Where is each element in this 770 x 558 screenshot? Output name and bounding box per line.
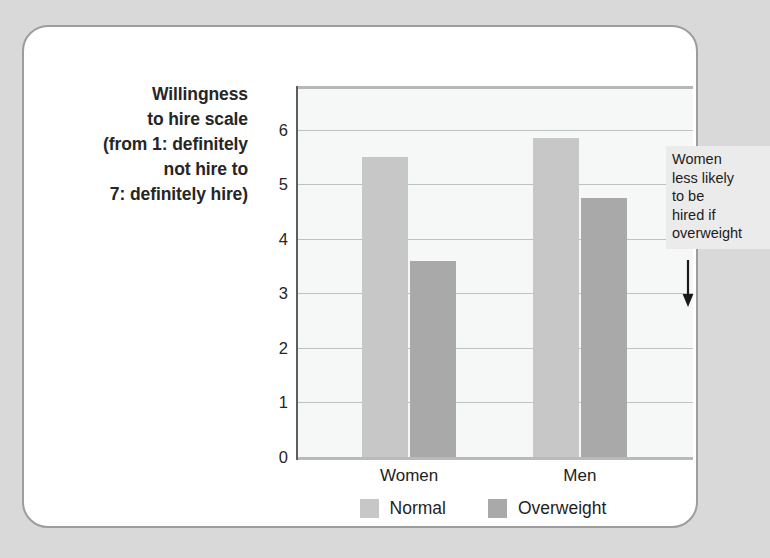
figure-card: Willingness to hire scale (from 1: defin… xyxy=(22,25,698,528)
annotation-line-1: Women xyxy=(672,150,765,169)
chart-legend: NormalOverweight xyxy=(273,498,693,519)
down-arrow-icon xyxy=(681,260,695,308)
y-axis-tick-label: 0 xyxy=(266,449,288,466)
y-axis-tick-label: 3 xyxy=(266,285,288,302)
y-axis-tick-label: 6 xyxy=(266,122,288,139)
y-axis-title: Willingness to hire scale (from 1: defin… xyxy=(30,82,248,207)
legend-label-overweight: Overweight xyxy=(518,498,607,519)
x-axis-label-women: Women xyxy=(349,466,469,486)
y-axis-tick-label: 2 xyxy=(266,340,288,357)
bar-men-normal xyxy=(533,138,579,457)
annotation-line-4: hired if xyxy=(672,206,765,225)
bars-layer xyxy=(296,89,693,457)
y-axis-title-line-2: to hire scale xyxy=(30,107,248,132)
y-axis-tick-label: 1 xyxy=(266,394,288,411)
bar-men-overweight xyxy=(581,198,627,457)
y-axis-line xyxy=(296,86,298,460)
y-axis-title-line-1: Willingness xyxy=(30,82,248,107)
chart-plot-region: 0123456 WomenMen Women less likely to be… xyxy=(273,64,693,476)
bar-women-overweight xyxy=(410,261,456,457)
annotation-line-3: to be xyxy=(672,187,765,206)
annotation-line-2: less likely xyxy=(672,169,765,188)
legend-swatch-overweight xyxy=(488,499,507,518)
legend-swatch-normal xyxy=(360,499,379,518)
y-axis-title-line-3: (from 1: definitely xyxy=(30,132,248,157)
y-axis-tick-label: 5 xyxy=(266,176,288,193)
y-axis-tick-label: 4 xyxy=(266,231,288,248)
x-axis-label-men: Men xyxy=(520,466,640,486)
legend-label-normal: Normal xyxy=(390,498,446,519)
annotation-callout: Women less likely to be hired if overwei… xyxy=(666,146,770,249)
y-axis-title-line-4: not hire to xyxy=(30,157,248,182)
x-axis-line xyxy=(296,457,693,460)
y-axis-title-line-5: 7: definitely hire) xyxy=(30,182,248,207)
bar-women-normal xyxy=(362,157,408,457)
legend-item-normal[interactable]: Normal xyxy=(360,498,446,519)
legend-item-overweight[interactable]: Overweight xyxy=(488,498,607,519)
annotation-line-5: overweight xyxy=(672,224,765,243)
